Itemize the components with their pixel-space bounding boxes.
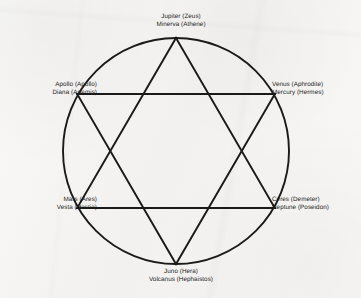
label-upper-left-second: Diana (Artemis)	[19, 89, 97, 97]
vertex-markers	[76, 37, 276, 265]
label-upper-right-roman: Venus (Aphrodite)	[272, 81, 358, 89]
label-bottom-second: Volcanus (Hephaistos)	[131, 276, 231, 284]
label-upper-left: Apollo (Apollo) Diana (Artemis)	[19, 81, 97, 96]
label-top-roman: Jupiter (Zeus)	[143, 13, 219, 21]
downward-triangle	[77, 94, 275, 264]
enclosing-circle	[63, 38, 289, 264]
label-top-second: Minerva (Athene)	[143, 21, 219, 29]
label-upper-right-second: Mercury (Hermes)	[272, 89, 358, 97]
label-upper-left-roman: Apollo (Apollo)	[19, 81, 97, 89]
label-top: Jupiter (Zeus) Minerva (Athene)	[143, 13, 219, 28]
label-lower-left-second: Vesta (Hestia)	[19, 204, 97, 212]
diagram-page: Jupiter (Zeus) Minerva (Athene) Apollo (…	[0, 0, 361, 298]
label-lower-right-roman: Ceres (Demeter)	[272, 196, 358, 204]
label-bottom-roman: Juno (Hera)	[131, 268, 231, 276]
label-bottom: Juno (Hera) Volcanus (Hephaistos)	[131, 268, 231, 283]
label-lower-right: Ceres (Demeter) Neptune (Poseidon)	[272, 196, 358, 211]
label-lower-right-second: Neptune (Poseidon)	[272, 204, 358, 212]
label-lower-left: Mars (Ares) Vesta (Hestia)	[19, 196, 97, 211]
label-lower-left-roman: Mars (Ares)	[19, 196, 97, 204]
label-upper-right: Venus (Aphrodite) Mercury (Hermes)	[272, 81, 358, 96]
hexagram-figure	[0, 0, 361, 298]
upward-triangle	[77, 38, 275, 208]
